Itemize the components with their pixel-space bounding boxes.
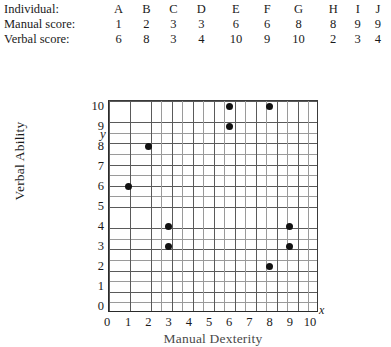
table-cell: 2 (133, 17, 160, 32)
y-tick-label: 6 (82, 180, 104, 193)
plot-area (108, 100, 318, 312)
table-cell: J (368, 2, 388, 17)
data-point (266, 103, 273, 110)
table-cell: 10 (216, 32, 256, 47)
table-cell: 9 (348, 17, 368, 32)
table-cell: 3 (160, 32, 187, 47)
data-point (125, 183, 132, 190)
table-cell: 6 (216, 17, 256, 32)
y-tick-label: 0 (82, 300, 104, 313)
data-point (165, 243, 172, 250)
data-point (145, 143, 152, 150)
row-label: Manual score: (4, 17, 104, 32)
y-tick-label: 3 (82, 240, 104, 253)
table-cell: I (348, 2, 368, 17)
table-cell: 3 (160, 17, 187, 32)
table-cell: 6 (104, 32, 133, 47)
y-tick-label: 7 (82, 160, 104, 173)
y-axis-tick-labels: 012345678910 (82, 58, 104, 338)
table-cell: 1 (104, 17, 133, 32)
score-table-body: Individual:ABCDEFGHIJManual score:123366… (4, 2, 388, 46)
table-row: Individual:ABCDEFGHIJ (4, 2, 388, 17)
table-cell: B (133, 2, 160, 17)
y-tick-label: 4 (82, 220, 104, 233)
table-row: Manual score:1233668899 (4, 17, 388, 32)
data-point (226, 123, 233, 130)
y-tick-label: 2 (82, 260, 104, 273)
y-tick-label: 1 (82, 280, 104, 293)
table-cell: 6 (256, 17, 278, 32)
table-cell: 8 (319, 17, 348, 32)
data-point (286, 223, 293, 230)
table-cell: F (256, 2, 278, 17)
y-tick-label: 5 (82, 200, 104, 213)
table-cell: C (160, 2, 187, 17)
row-label: Verbal score: (4, 32, 104, 47)
y-tick-label: 10 (82, 100, 104, 113)
table-cell: 3 (348, 32, 368, 47)
x-axis-tick-labels: 012345678910 (0, 316, 391, 336)
table-cell: 10 (278, 32, 318, 47)
table-cell: 3 (187, 17, 216, 32)
table-cell: 9 (368, 17, 388, 32)
table-cell: 4 (187, 32, 216, 47)
table-cell: 8 (133, 32, 160, 47)
table-cell: E (216, 2, 256, 17)
table-cell: H (319, 2, 348, 17)
table-cell: 8 (278, 17, 318, 32)
table-cell: 4 (368, 32, 388, 47)
row-label: Individual: (4, 2, 104, 17)
x-tick-label: 10 (298, 316, 322, 329)
data-point (286, 243, 293, 250)
table-row: Verbal score:683410910234 (4, 32, 388, 47)
table-cell: G (278, 2, 318, 17)
data-point (266, 263, 273, 270)
score-table: Individual:ABCDEFGHIJManual score:123366… (4, 2, 388, 46)
data-point (226, 103, 233, 110)
table-cell: 9 (256, 32, 278, 47)
y-tick-label: 9 (82, 120, 104, 133)
table-cell: A (104, 2, 133, 17)
scatter-plot-figure: y x Verbal Ability Manual Dexterity 0123… (0, 58, 391, 338)
y-axis-title: Verbal Ability (12, 96, 28, 226)
y-tick-label: 8 (82, 140, 104, 153)
table-cell: D (187, 2, 216, 17)
table-cell: 2 (319, 32, 348, 47)
data-point (165, 223, 172, 230)
